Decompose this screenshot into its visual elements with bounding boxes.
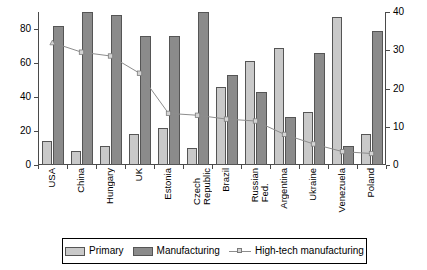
y-axis-left-tick-label: 40: [20, 92, 31, 102]
high-tech-data-point: [137, 71, 141, 75]
x-axis-category-label: Estonia: [163, 168, 173, 200]
x-axis-category-label: Argentina: [279, 168, 289, 209]
high-tech-data-point: [195, 113, 199, 117]
x-axis-category-label: UK: [134, 168, 144, 181]
x-axis-category-label: Czech Republic: [192, 168, 212, 205]
x-axis-category-label: China: [76, 168, 86, 193]
y-axis-right-tick: [386, 50, 390, 51]
x-axis-category-label: USA: [47, 168, 57, 188]
y-axis-right-tick-label: 0: [393, 160, 399, 170]
y-axis-right-tick-label: 30: [393, 45, 404, 55]
y-axis-right-tick: [386, 12, 390, 13]
high-tech-data-point: [50, 40, 55, 45]
y-axis-left-tick-label: 20: [20, 126, 31, 136]
plot-area: 020406080 010203040: [38, 12, 386, 165]
legend-item-primary: Primary: [65, 246, 123, 256]
y-axis-right-tick-label: 10: [393, 122, 404, 132]
high-tech-data-point: [224, 117, 228, 121]
legend-item-high-tech: High-tech manufacturing: [229, 246, 364, 256]
legend-swatch-primary-icon: [65, 247, 85, 256]
legend-item-manufacturing: Manufacturing: [133, 246, 220, 256]
x-axis-category-label: Venezuela: [337, 168, 347, 212]
legend-line-marker-icon: [229, 247, 251, 256]
y-axis-right-tick: [386, 127, 390, 128]
x-axis-category-label: Brazil: [221, 168, 231, 192]
y-axis-right-tick-label: 20: [393, 84, 404, 94]
legend-label-manufacturing: Manufacturing: [157, 246, 220, 256]
high-tech-data-point: [340, 149, 344, 153]
high-tech-data-point: [108, 54, 112, 58]
high-tech-data-point: [369, 151, 373, 155]
x-axis-category-labels: USAChinaHungaryUKEstoniaCzech RepublicBr…: [38, 168, 386, 230]
chart-container: 020406080 010203040 USAChinaHungaryUKEst…: [0, 0, 427, 270]
high-tech-data-point: [79, 50, 83, 54]
legend-label-high-tech: High-tech manufacturing: [255, 246, 364, 256]
x-axis-category-label: Russian Fed.: [250, 168, 270, 202]
high-tech-data-point: [282, 132, 286, 136]
x-axis-category-label: Hungary: [105, 168, 115, 204]
high-tech-data-point: [253, 119, 257, 123]
high-tech-data-point: [166, 111, 170, 115]
x-axis-category-label: Ukraine: [308, 168, 318, 201]
y-axis-left-tick-label: 80: [20, 24, 31, 34]
high-tech-data-point: [311, 142, 315, 146]
legend-swatch-manufacturing-icon: [133, 247, 153, 256]
y-axis-left-tick-label: 60: [20, 58, 31, 68]
high-tech-line-series: [38, 12, 386, 165]
y-axis-left-tick-label: 0: [25, 160, 31, 170]
x-axis-category-label: Poland: [366, 168, 376, 198]
x-axis-tick: [386, 165, 387, 169]
chart-legend: Primary Manufacturing High-tech manufact…: [62, 238, 367, 264]
legend-label-primary: Primary: [89, 246, 123, 256]
y-axis-right-tick-label: 40: [393, 7, 404, 17]
y-axis-right-tick: [386, 89, 390, 90]
high-tech-line-path: [53, 43, 372, 154]
